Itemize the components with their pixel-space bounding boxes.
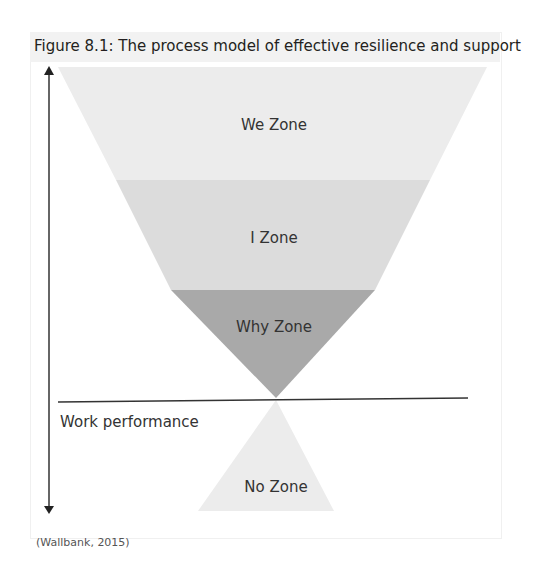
why-zone-shape: [171, 290, 375, 398]
why-zone-label: Why Zone: [236, 318, 312, 336]
no-zone-label: No Zone: [244, 478, 307, 496]
work-performance-label: Work performance: [60, 413, 199, 431]
arrow-up-icon: [44, 66, 54, 75]
i-zone-label: I Zone: [250, 229, 297, 247]
source-citation: (Wallbank, 2015): [36, 536, 130, 549]
work-performance-line: [58, 398, 468, 402]
we-zone-label: We Zone: [241, 116, 307, 134]
arrow-down-icon: [44, 506, 54, 514]
